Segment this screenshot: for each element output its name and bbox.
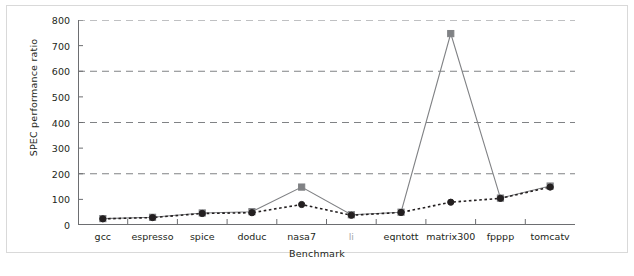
y-tick-label: 0 bbox=[36, 220, 70, 231]
y-tick-label: 100 bbox=[36, 194, 70, 205]
x-tick-label: li bbox=[349, 231, 354, 242]
x-axis-title: Benchmark bbox=[0, 248, 634, 259]
y-tick-label: 400 bbox=[36, 117, 70, 128]
y-tick-label: 600 bbox=[36, 66, 70, 77]
y-tick-label: 700 bbox=[36, 40, 70, 51]
plot-axes bbox=[78, 20, 575, 225]
y-tick-label: 300 bbox=[36, 143, 70, 154]
y-tick-label: 200 bbox=[36, 168, 70, 179]
y-tick-label: 500 bbox=[36, 91, 70, 102]
x-tick-label: fpppp bbox=[487, 231, 514, 242]
x-tick-label: doduc bbox=[237, 231, 266, 242]
x-tick-label: espresso bbox=[132, 231, 174, 242]
x-tick-label: eqntott bbox=[384, 231, 419, 242]
y-tick-label: 800 bbox=[36, 15, 70, 26]
x-tick-label: matrix300 bbox=[426, 231, 475, 242]
plot-area: 8007006005004003002001000 gccespressospi… bbox=[78, 20, 575, 225]
x-tick-label: spice bbox=[190, 231, 215, 242]
x-tick-label: gcc bbox=[95, 231, 111, 242]
x-tick-label: tomcatv bbox=[531, 231, 570, 242]
x-tick-label: nasa7 bbox=[287, 231, 316, 242]
chart-figure: SPEC performance ratio Benchmark 8007006… bbox=[0, 0, 634, 276]
